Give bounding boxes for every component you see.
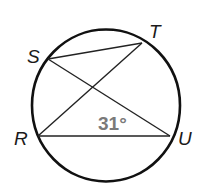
geometry-diagram: S T R U 31° — [0, 0, 201, 191]
point-label-s: S — [27, 46, 40, 67]
point-label-u: U — [178, 128, 192, 149]
angle-label: 31° — [98, 113, 127, 134]
point-label-t: T — [149, 21, 162, 42]
circle — [32, 30, 180, 182]
point-label-r: R — [14, 128, 28, 149]
